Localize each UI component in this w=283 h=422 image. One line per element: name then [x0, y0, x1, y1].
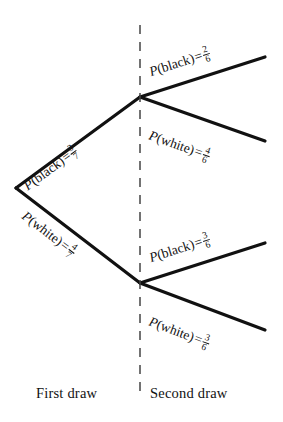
probability-tree-diagram: P(black)=37 P(white)=47 P(black)=26 P(wh… [0, 0, 283, 422]
first-draw-caption: First draw [36, 385, 97, 402]
second-draw-caption: Second draw [150, 385, 228, 402]
tree-branch-lines [0, 0, 283, 422]
